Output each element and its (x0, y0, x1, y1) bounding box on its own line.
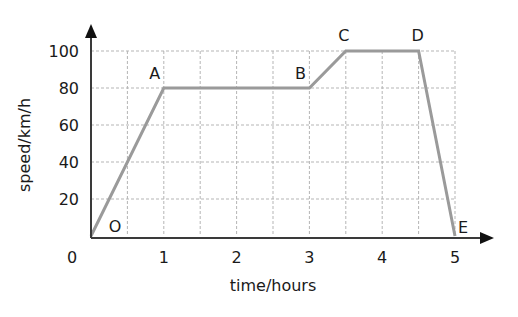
x-tick-labels: 012345 (67, 248, 460, 267)
x-tick-label: 2 (232, 248, 242, 267)
y-tick-label: 40 (59, 153, 79, 172)
point-label-e: E (458, 218, 468, 237)
x-tick-label: 3 (304, 248, 314, 267)
speed-time-graph: 012345 20406080100 OABCDE time/hours spe… (0, 0, 518, 317)
point-labels: OABCDE (109, 26, 468, 237)
x-tick-label: 1 (159, 248, 169, 267)
x-tick-label: 0 (67, 248, 77, 267)
axes (85, 24, 494, 244)
point-label-o: O (109, 217, 122, 236)
grid (91, 51, 455, 236)
x-tick-label: 5 (450, 248, 460, 267)
y-tick-label: 60 (59, 116, 79, 135)
x-tick-label: 4 (377, 248, 387, 267)
y-tick-labels: 20406080100 (48, 42, 79, 209)
x-axis-title: time/hours (230, 276, 317, 295)
y-axis-arrow-icon (85, 24, 97, 38)
point-label-a: A (149, 64, 160, 83)
point-label-b: B (295, 64, 306, 83)
y-tick-label: 20 (59, 190, 79, 209)
x-axis-arrow-icon (480, 232, 494, 244)
y-tick-label: 80 (59, 79, 79, 98)
point-label-d: D (411, 26, 423, 45)
y-axis-title: speed/km/h (15, 98, 34, 192)
point-label-c: C (338, 26, 349, 45)
y-tick-label: 100 (48, 42, 79, 61)
